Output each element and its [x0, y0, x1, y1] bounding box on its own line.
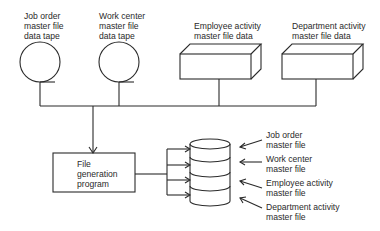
segment-pointer-arrows [240, 140, 262, 208]
department-activity-data-box-icon [282, 44, 363, 79]
employee-activity-data-box-icon [180, 44, 261, 79]
work-center-tape-label: Work center master file data tape [99, 11, 145, 41]
job-order-tape-label: Job order master file data tape [24, 11, 64, 41]
segment-label-employee-activity: Employee activity master file [266, 178, 333, 198]
employee-activity-data-label: Employee activity master file data [194, 21, 261, 41]
department-activity-data-label: Department activity master file data [292, 21, 366, 41]
work-center-tape-icon [99, 42, 139, 82]
file-generation-program-label: File generation program [77, 159, 118, 189]
master-file-database-icon [190, 139, 230, 206]
segment-label-department-activity: Department activity master file [266, 202, 340, 222]
job-order-tape-icon [20, 42, 60, 82]
output-fan-connector [135, 146, 190, 198]
segment-label-job-order: Job order master file [266, 130, 306, 150]
segment-label-work-center: Work center master file [266, 154, 312, 174]
